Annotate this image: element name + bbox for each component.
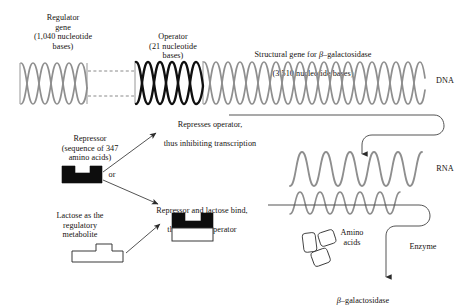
rna-wave xyxy=(290,152,422,186)
amino-acid-particles xyxy=(302,229,337,267)
diagram-artwork xyxy=(0,0,465,305)
arrow-bind-to-enzyme xyxy=(268,205,430,277)
arrow-repressor-to-bind xyxy=(103,180,158,204)
dna-gap-dashed-connector xyxy=(88,71,134,96)
lactose-shape xyxy=(72,244,123,262)
repressor-lactose-complex xyxy=(172,213,213,241)
repressor-shape xyxy=(62,166,102,183)
dna-helix-operator xyxy=(136,62,203,104)
arrow-repressor-to-repress xyxy=(103,133,156,172)
dna-helix-regulator xyxy=(21,63,87,104)
arrow-repress-to-rna xyxy=(229,115,444,154)
dna-helix-structural xyxy=(204,62,425,104)
arrow-lactose-to-bind xyxy=(126,224,160,253)
diagram-canvas: Regulator gene (1,040 nucleotide bases) … xyxy=(0,0,465,305)
polypeptide-wave xyxy=(290,192,400,214)
